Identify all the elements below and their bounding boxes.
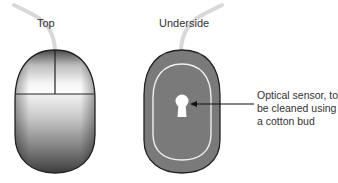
sensor-callout: Optical sensor, to be cleaned using a co… (257, 89, 338, 128)
top-view-label: Top (37, 17, 55, 29)
underside-view-label: Underside (159, 17, 209, 29)
callout-line: Optical sensor, to (257, 89, 338, 102)
callout-line: be cleaned using (257, 102, 338, 115)
callout-line: a cotton bud (257, 115, 338, 128)
